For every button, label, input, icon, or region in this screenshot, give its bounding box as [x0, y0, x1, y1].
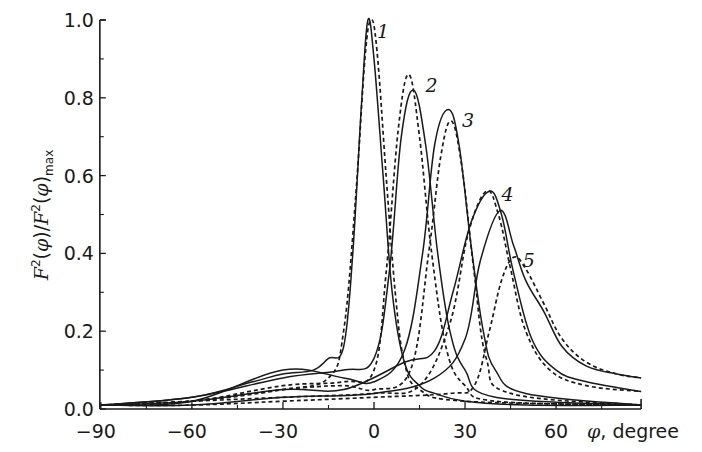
x-tick-label: −90 [76, 420, 116, 442]
curve-2-dashed [101, 74, 641, 405]
curve-label-3: 3 [462, 109, 474, 131]
x-tick-label: 60 [544, 420, 568, 442]
x-axis-title: φ, degree [587, 420, 679, 442]
y-tick-label: 0.8 [64, 87, 94, 109]
y-tick-label: 0.6 [64, 165, 94, 187]
y-tick-label: 1.0 [64, 9, 94, 31]
x-tick-label: −30 [258, 420, 298, 442]
x-tick-label: 0 [368, 420, 380, 442]
curve-1-dashed [101, 20, 641, 405]
curve-label-4: 4 [500, 183, 513, 205]
x-tick-label: −60 [167, 420, 207, 442]
x-tick-label: 30 [453, 420, 477, 442]
curve-label-5: 5 [523, 249, 535, 271]
svg-text:F2(φ)/F2(φ)max: F2(φ)/F2(φ)max [29, 150, 56, 282]
curve-3-solid [101, 110, 641, 406]
axes-group: 0.00.20.40.60.81.0−90−60−3003060 [64, 9, 641, 442]
y-axis-title: F2(φ)/F2(φ)max [29, 150, 56, 282]
curve-4-solid [101, 191, 641, 405]
y-tick-label: 0.2 [64, 320, 94, 342]
curve-1-solid [101, 18, 641, 405]
y-tick-label: 0.4 [64, 242, 94, 264]
curve-label-2: 2 [425, 74, 438, 96]
curve-label-1: 1 [377, 20, 389, 42]
curves-group [101, 18, 641, 405]
curve-2-solid [101, 90, 641, 405]
y-tick-label: 0.0 [64, 398, 94, 420]
chart: 0.00.20.40.60.81.0−90−60−3003060 12345 F… [0, 0, 702, 452]
curve-3-dashed [101, 121, 641, 405]
